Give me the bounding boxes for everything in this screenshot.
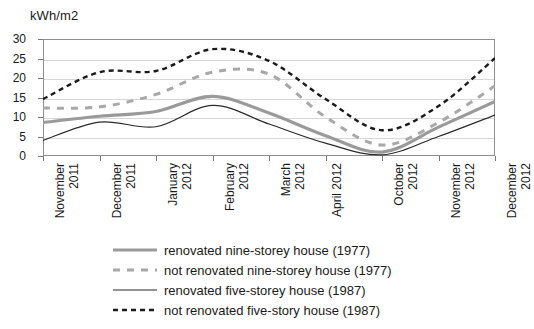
y-tick-mark xyxy=(38,39,43,40)
legend-line-swatch xyxy=(112,263,158,277)
legend-line-swatch xyxy=(112,243,158,257)
y-tick-mark xyxy=(38,78,43,79)
x-tick-mark xyxy=(439,156,440,161)
x-tick-mark xyxy=(269,156,270,161)
energy-consumption-line-chart: kWh/m2 051015202530 November 2011Decembe… xyxy=(0,0,534,329)
x-tick-label: February 2012 xyxy=(224,163,251,223)
y-tick-mark xyxy=(38,98,43,99)
plot-area xyxy=(43,39,495,156)
legend-label: not renovated five-story house (1987) xyxy=(164,303,380,318)
gridline xyxy=(44,60,494,61)
y-tick-label: 5 xyxy=(0,131,26,143)
x-tick-mark xyxy=(100,156,101,161)
x-tick-label: March 2012 xyxy=(280,163,307,223)
legend-label: renovated nine-storey house (1977) xyxy=(164,243,370,258)
x-tick-mark xyxy=(43,156,44,161)
x-tick-mark xyxy=(382,156,383,161)
y-tick-label: 30 xyxy=(0,33,26,45)
y-tick-label: 0 xyxy=(0,150,26,162)
legend-item[interactable]: not renovated nine-storey house (1977) xyxy=(112,260,442,280)
x-tick-mark xyxy=(213,156,214,161)
y-tick-mark xyxy=(38,117,43,118)
legend-item[interactable]: renovated five-storey house (1987) xyxy=(112,280,442,300)
x-tick-label: January 2012 xyxy=(167,163,194,223)
x-tick-label: November 2011 xyxy=(54,163,81,223)
chart-legend: renovated nine-storey house (1977)not re… xyxy=(112,240,442,320)
y-tick-label: 10 xyxy=(0,111,26,123)
x-tick-label: December 2012 xyxy=(506,163,533,223)
y-tick-mark xyxy=(38,59,43,60)
legend-item[interactable]: renovated nine-storey house (1977) xyxy=(112,240,442,260)
x-tick-mark xyxy=(495,156,496,161)
x-tick-label: April 2012 xyxy=(331,163,345,223)
y-tick-label: 25 xyxy=(0,53,26,65)
x-tick-mark xyxy=(156,156,157,161)
gridline xyxy=(44,138,494,139)
y-tick-label: 15 xyxy=(0,92,26,104)
legend-line-swatch xyxy=(112,283,158,297)
y-tick-mark xyxy=(38,137,43,138)
x-tick-label: November 2012 xyxy=(450,163,477,223)
x-tick-label: December 2011 xyxy=(111,163,138,223)
gridline xyxy=(44,99,494,100)
y-tick-label: 20 xyxy=(0,72,26,84)
gridline xyxy=(44,118,494,119)
y-axis-unit-title: kWh/m2 xyxy=(30,8,78,23)
x-tick-mark xyxy=(326,156,327,161)
gridline xyxy=(44,79,494,80)
legend-line-swatch xyxy=(112,303,158,317)
x-tick-label: October 2012 xyxy=(393,163,420,223)
legend-item[interactable]: not renovated five-story house (1987) xyxy=(112,300,442,320)
legend-label: not renovated nine-storey house (1977) xyxy=(164,263,392,278)
legend-label: renovated five-storey house (1987) xyxy=(164,283,366,298)
